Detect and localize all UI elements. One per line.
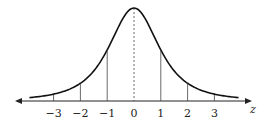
x-axis-label: z — [249, 103, 256, 116]
tick-label-0: 0 — [131, 107, 138, 120]
tick-label--1: −1 — [99, 107, 115, 120]
tick-label-1: 1 — [157, 107, 164, 120]
tick-label-2: 2 — [184, 107, 191, 120]
tick-label--2: −2 — [72, 107, 88, 120]
bell-curve-chart: −3−2−10123z — [0, 0, 266, 124]
tick-label--3: −3 — [45, 107, 61, 120]
tick-label-3: 3 — [211, 107, 218, 120]
left-arrow-icon — [15, 98, 22, 104]
chart-svg: −3−2−10123z — [0, 0, 266, 124]
